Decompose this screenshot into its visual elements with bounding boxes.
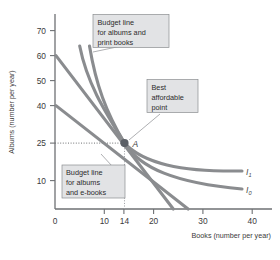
y-tick-70: 70 — [37, 26, 47, 36]
y-tick-60: 60 — [37, 51, 47, 61]
callout-best-point-line-1: Best — [152, 83, 167, 92]
best-affordable-point-marker — [120, 139, 128, 147]
callout-leader-best-point — [129, 114, 160, 140]
callout-ebooks-line-3: and e-books — [66, 188, 107, 197]
indifference-curve-chart: 70 60 50 40 25 10 0 10 14 20 30 40 Album… — [0, 0, 280, 260]
x-tick-30: 30 — [198, 216, 208, 226]
callout-leader-ebooks — [101, 154, 112, 166]
y-tick-25: 25 — [37, 138, 47, 148]
y-tick-40: 40 — [37, 101, 47, 111]
x-axis-ticks — [104, 209, 252, 214]
y-axis-ticks — [50, 31, 55, 181]
budget-line-ebooks-callout: Budget line for albums and e-books — [62, 154, 125, 198]
x-tick-0: 0 — [53, 216, 58, 226]
y-tick-50: 50 — [37, 76, 47, 86]
callout-print-books-line-2: for albums and — [98, 28, 146, 37]
callout-best-point-line-3: point — [152, 103, 168, 112]
x-tick-20: 20 — [149, 216, 159, 226]
y-tick-10: 10 — [37, 176, 47, 186]
budget-line-print-books-callout: Budget line for albums and print books — [93, 15, 169, 53]
callout-print-books-line-1: Budget line — [98, 18, 135, 27]
x-axis-title: Books (number per year) — [192, 231, 272, 240]
best-affordable-point-callout: Best affordable point — [129, 80, 198, 141]
chart-figure: 70 60 50 40 25 10 0 10 14 20 30 40 Album… — [0, 0, 280, 260]
callout-print-books-line-3: print books — [98, 38, 134, 47]
x-tick-40: 40 — [248, 216, 258, 226]
x-axis-tick-labels: 0 10 14 20 30 40 — [53, 216, 258, 226]
callout-best-point-line-2: affordable — [152, 93, 184, 102]
y-axis-title: Albums (number per year) — [7, 70, 16, 154]
x-tick-10: 10 — [100, 216, 110, 226]
y-axis-tick-labels: 70 60 50 40 25 10 — [37, 26, 47, 186]
callout-ebooks-line-2: for albums — [66, 178, 100, 187]
callout-ebooks-line-1: Budget line — [66, 168, 103, 177]
point-a-label: A — [132, 139, 139, 149]
curve-label-I1: I1 — [246, 167, 252, 178]
curve-label-I0: I0 — [246, 185, 252, 196]
x-tick-14: 14 — [120, 216, 130, 226]
